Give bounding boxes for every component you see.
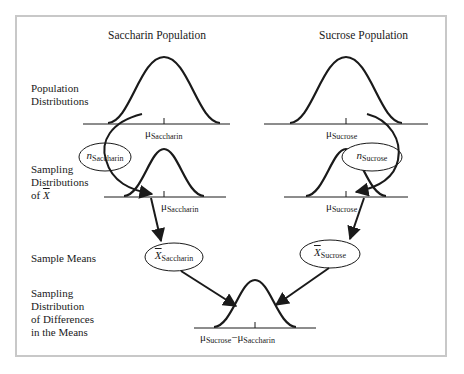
mu-saccharin-sampling-label: μSaccharin [161, 200, 198, 214]
mu-difference-label: μSucrose−μSaccharin [200, 331, 275, 345]
mu-sucrose-sampling-label: μSucrose [326, 200, 357, 214]
xbar-sucrose-label: XSucrose [300, 246, 360, 260]
population-distributions-label: Population Distributions [31, 82, 88, 108]
arrow-xbar-saccharin-to-difference [181, 271, 236, 306]
sample-means-label: Sample Means [31, 252, 96, 265]
n-sucrose-label: nSucrose [342, 149, 402, 163]
difference-distribution-label: Sampling Distribution of Differences in … [31, 287, 94, 339]
mu-saccharin-population-label: μSaccharin [145, 127, 182, 141]
arrow-sampling-to-xbar-saccharin [151, 198, 161, 241]
xbar-saccharin-label: XSaccharin [145, 249, 203, 263]
saccharin-population-title: Saccharin Population [108, 29, 206, 42]
arrow-xbar-sucrose-to-difference [276, 268, 329, 305]
mu-sucrose-population-label: μSucrose [326, 127, 357, 141]
n-saccharin-label: nSaccharin [80, 149, 130, 163]
sampling-distributions-label: Sampling Distributions of X [31, 163, 88, 202]
population-sucrose-curve [264, 57, 428, 124]
difference-curve [194, 280, 316, 328]
sucrose-population-title: Sucrose Population [319, 29, 408, 42]
population-saccharin-curve [83, 57, 230, 124]
